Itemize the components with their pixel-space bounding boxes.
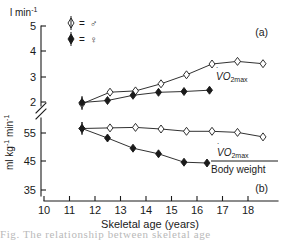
panel-b-curve-label-sub: 2max [231, 152, 249, 159]
data-point-female-panel-b [79, 125, 85, 133]
data-point-female-panel-b [204, 159, 210, 167]
y-axis-top-unit-exponent: -1 [31, 6, 37, 13]
x-tick-label-11: 11 [64, 204, 75, 216]
panel-b-curve-label-numerator: VO2max [217, 147, 249, 159]
y-tick-label-4: 4 [30, 45, 36, 57]
legend-equals-female: = [79, 34, 85, 45]
female-symbol-icon: ♀ [90, 34, 98, 45]
figure-container: l min-1 ml kg-1 min-1 5 4 3 2 55 45 35 [0, 0, 283, 244]
legend-equals-male: = [79, 18, 85, 29]
x-tick-label-17: 17 [216, 204, 228, 216]
panel-b-plot [79, 122, 266, 167]
panel-a-plot [79, 57, 266, 110]
x-tick-label-12: 12 [89, 204, 101, 216]
panel-b-vdot-icon: ˙ [217, 142, 220, 152]
x-tick-label-10: 10 [38, 204, 50, 216]
data-point-female-panel-b [156, 150, 162, 158]
data-point-male-panel-b [184, 127, 190, 135]
y-tick-label-55: 55 [24, 127, 36, 139]
y-axis-bottom-unit-mid: min [4, 121, 15, 140]
data-point-male-panel-a [158, 80, 164, 88]
data-point-male-panel-b [260, 133, 266, 141]
data-point-male-panel-b [209, 127, 215, 135]
data-point-male-panel-a [260, 60, 266, 68]
chart-svg: l min-1 ml kg-1 min-1 5 4 3 2 55 45 35 [0, 0, 283, 244]
data-point-male-panel-a [235, 57, 241, 65]
y-axis-top-unit-text: l min [10, 7, 31, 18]
panel-b-label: (b) [255, 182, 268, 194]
panel-a-curve-label-sub: 2max [230, 76, 248, 83]
panel-a-label: (a) [255, 26, 268, 38]
x-tick-label-16: 16 [191, 204, 203, 216]
y-tick-label-3: 3 [30, 71, 36, 83]
panel-b-curve-label-denominator: Body weight [211, 164, 266, 175]
data-point-male-panel-b [133, 123, 139, 131]
x-tick-label-14: 14 [140, 204, 152, 216]
data-point-female-panel-a [207, 86, 213, 94]
panel-a-curve-label: VO2max [216, 71, 248, 83]
legend-item-male: = ♂ [68, 16, 98, 30]
y-tick-label-2: 2 [30, 96, 36, 108]
legend-item-female: = ♀ [68, 32, 98, 46]
male-symbol-icon: ♂ [90, 18, 98, 29]
y-axis-bottom-unit: ml kg-1 min-1 [3, 115, 15, 170]
data-point-male-panel-b [235, 128, 241, 136]
data-point-female-panel-b [181, 158, 187, 166]
data-point-female-panel-b [130, 144, 136, 152]
x-tick-label-13: 13 [114, 204, 126, 216]
data-point-male-panel-a [107, 88, 113, 96]
data-point-male-panel-a [209, 60, 215, 68]
data-point-female-panel-a [181, 88, 187, 96]
panel-a-vdot-icon: ˙ [216, 66, 219, 76]
data-point-female-panel-b [105, 134, 111, 142]
y-tick-label-5: 5 [30, 20, 36, 32]
data-point-female-panel-a [156, 88, 162, 96]
x-tick-label-15: 15 [165, 204, 177, 216]
x-tick-label-18: 18 [242, 204, 254, 216]
figure-caption: Fig. The relationship between skeletal a… [0, 228, 283, 244]
legend: = ♂ = ♀ [68, 16, 98, 46]
y-tick-label-45: 45 [24, 155, 36, 167]
y-tick-label-35: 35 [24, 184, 36, 196]
data-point-male-panel-b [107, 124, 113, 132]
data-point-male-panel-a [184, 71, 190, 79]
y-axis-top-unit: l min-1 [10, 6, 37, 18]
data-point-female-panel-a [105, 97, 111, 105]
y-axis-bottom-unit-text: ml kg [4, 146, 15, 170]
y-axis-bottom-unit-exponent-2: -1 [3, 115, 10, 121]
data-point-male-panel-b [158, 125, 164, 133]
